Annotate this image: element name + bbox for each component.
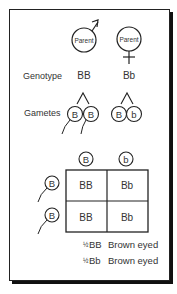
result-2-genotype: Bb <box>89 255 101 266</box>
punnett-diagram: Parent Parent Genotype BB Bb Gametes B B… <box>0 0 177 294</box>
cell-1-1: BB <box>79 180 93 191</box>
column-gamete-1: B <box>83 154 89 165</box>
punnett-square: BB Bb BB Bb <box>66 170 148 232</box>
female-gametes: B b <box>112 107 142 122</box>
gametes-label: Gametes <box>24 108 61 118</box>
result-1-genotype: BB <box>89 239 102 250</box>
female-parent-label: Parent <box>119 36 138 43</box>
row-gamete-2: B <box>49 210 55 221</box>
cell-2-1: BB <box>79 212 93 223</box>
male-gamete-2: B <box>88 109 94 120</box>
male-parent: Parent <box>72 20 98 52</box>
cell-1-2: Bb <box>121 180 134 191</box>
result-1-phenotype: Brown eyed <box>108 239 158 250</box>
cell-2-2: Bb <box>121 212 134 223</box>
female-genotype: Bb <box>123 70 136 81</box>
male-gamete-1: B <box>72 109 78 120</box>
female-gamete-2: b <box>131 109 136 120</box>
column-gamete-2: b <box>123 154 128 165</box>
male-gametes: B B <box>62 107 99 135</box>
female-parent: Parent <box>117 27 141 64</box>
row-gamete-1: B <box>49 178 55 189</box>
result-2-phenotype: Brown eyed <box>108 255 158 266</box>
results: ½ BB Brown eyed ½ Bb Brown eyed <box>83 239 158 266</box>
male-parent-label: Parent <box>74 37 93 44</box>
male-genotype: BB <box>77 70 91 81</box>
female-gamete-1: B <box>116 109 122 120</box>
genotype-label: Genotype <box>23 71 62 81</box>
